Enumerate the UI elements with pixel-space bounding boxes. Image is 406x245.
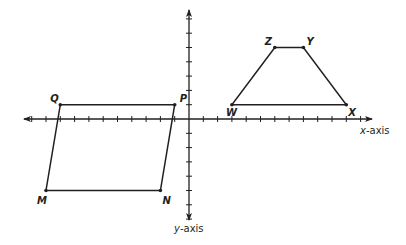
- vertex-label-n: N: [162, 195, 171, 206]
- coordinate-plane-figure: QPNMWXYZ x-axis y-axis: [0, 0, 406, 245]
- parallelogram-MNPQ: [46, 105, 175, 191]
- vertex-point-n: [159, 189, 163, 193]
- x-axis-label: x-axis: [359, 125, 390, 136]
- vertex-label-x: X: [347, 107, 357, 118]
- vertex-label-p: P: [180, 93, 188, 104]
- vertex-point-q: [59, 103, 63, 107]
- vertex-point-y: [302, 46, 306, 50]
- vertex-label-z: Z: [264, 36, 273, 47]
- trapezoid-WXYZ: [232, 48, 346, 105]
- vertex-label-y: Y: [306, 36, 315, 47]
- vertex-point-m: [44, 189, 48, 193]
- y-axis-label: y-axis: [173, 223, 204, 234]
- vertex-label-q: Q: [50, 93, 59, 104]
- vertex-labels: QPNMWXYZ: [37, 36, 357, 206]
- vertex-label-m: M: [37, 195, 47, 206]
- vertex-point-p: [173, 103, 177, 107]
- vertex-label-w: W: [226, 107, 238, 118]
- vertex-point-z: [273, 46, 277, 50]
